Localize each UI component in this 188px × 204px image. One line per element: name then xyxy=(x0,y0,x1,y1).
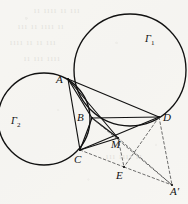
segment-BD xyxy=(92,117,159,118)
point-label-D: D xyxy=(163,112,171,123)
point-marker-E xyxy=(123,166,125,168)
point-label-A: A xyxy=(56,74,63,85)
point-marker-D xyxy=(158,116,160,118)
point-label-M: M xyxy=(111,139,120,150)
segment-MAp xyxy=(118,138,172,185)
segment-EAp xyxy=(124,167,172,185)
point-marker-B xyxy=(91,117,93,119)
point-label-C: C xyxy=(74,154,81,165)
geometry-figure: ıı ıııı ıı ıııııı ıı ıııı ıııııı ıı ıı ı… xyxy=(0,0,188,204)
dashed-segments-group xyxy=(80,117,172,185)
geometry-canvas xyxy=(0,0,188,204)
point-marker-A xyxy=(67,78,69,80)
point-marker-C xyxy=(79,149,81,151)
segment-CE xyxy=(80,150,124,167)
circle-label-gamma2: Γ2 xyxy=(11,116,20,129)
point-label-B: B xyxy=(77,112,84,123)
circle-label-gamma1: Γ1 xyxy=(145,34,154,47)
point-label-Ap: A′ xyxy=(170,186,179,197)
segment-AM xyxy=(68,79,118,138)
point-label-E: E xyxy=(116,170,123,181)
circle-gamma1 xyxy=(74,14,186,126)
segment-DAp xyxy=(159,117,172,185)
